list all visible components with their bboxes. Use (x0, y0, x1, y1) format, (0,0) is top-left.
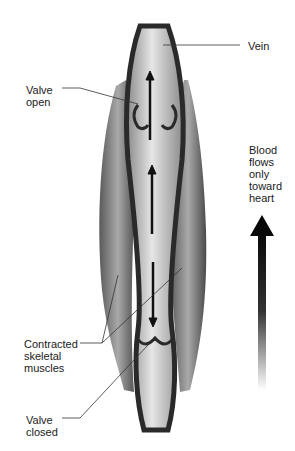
blood-flow-arrow (250, 215, 274, 390)
label-blood-flow: Blood flows only toward heart (249, 144, 282, 204)
label-valve-closed: Valve closed (26, 414, 58, 438)
vein (127, 26, 184, 430)
vein-muscle-illustration (0, 0, 295, 451)
label-vein: Vein (248, 40, 269, 52)
label-valve-open: Valve open (26, 84, 53, 108)
label-contracted-muscles: Contracted skeletal muscles (24, 338, 78, 374)
